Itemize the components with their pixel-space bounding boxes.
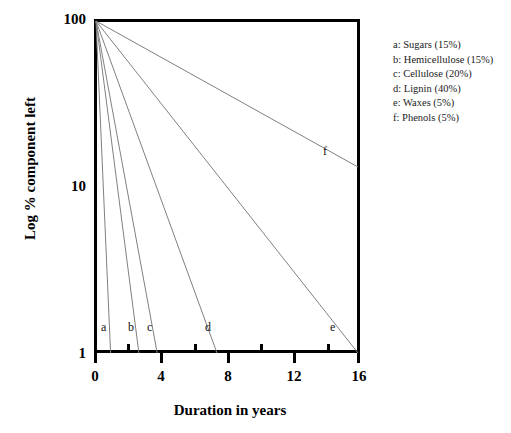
x-tick-label-12: 12 [279,369,309,384]
curve-label-b: b [128,321,134,333]
y-tick-label-100: 100 [34,12,86,27]
curve-label-a: a [101,321,106,333]
x-major-tick-4 [160,353,163,363]
x-minor-tick-6 [194,344,197,353]
decay-line-e [96,21,358,353]
decay-lines-group [94,19,360,353]
curve-label-e: e [330,321,335,333]
curve-label-f: f [323,145,327,157]
x-tick-label-4: 4 [146,369,176,384]
x-major-tick-0 [94,353,97,363]
x-tick-label-8: 8 [213,369,243,384]
x-major-tick-12 [293,353,296,363]
decay-line-c [96,21,157,353]
y-axis-title: Log % component left [22,59,39,279]
curve-label-d: d [205,321,211,333]
curve-label-c: c [147,321,152,333]
legend-item-d: d: Lignin (40%) [393,82,511,97]
decay-line-a [96,21,111,353]
y-tick-label-1: 1 [34,346,86,361]
x-minor-tick-10 [260,344,263,353]
x-minor-tick-14 [327,344,330,353]
x-major-tick-16 [357,353,360,363]
x-major-tick-8 [227,353,230,363]
decay-line-d [96,21,217,353]
decomposition-decay-chart: Log % component left 100 10 1 a b c d e … [0,0,511,433]
legend-item-f: f: Phenols (5%) [393,111,511,126]
y-tick-label-10: 10 [34,179,86,194]
x-tick-label-16: 16 [344,369,374,384]
legend-item-a: a: Sugars (15%) [393,38,511,53]
x-minor-tick-2 [127,344,130,353]
legend: a: Sugars (15%) b: Hemicellulose (15%) c… [393,38,511,126]
decay-line-b [96,21,139,353]
legend-item-c: c: Cellulose (20%) [393,67,511,82]
x-tick-label-0: 0 [80,369,110,384]
x-axis-title: Duration in years [0,402,460,419]
decay-line-f [96,21,358,167]
legend-item-b: b: Hemicellulose (15%) [393,53,511,68]
legend-item-e: e: Waxes (5%) [393,96,511,111]
